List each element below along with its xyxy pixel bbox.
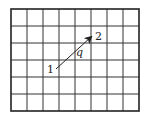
- grid-diagram: 1 2 q: [0, 0, 146, 118]
- grid-lines: [11, 9, 139, 111]
- grid-svg: [0, 0, 146, 118]
- angle-q-label: q: [76, 47, 83, 58]
- point-1-label: 1: [47, 64, 54, 75]
- point-2-label: 2: [95, 31, 102, 42]
- displacement-vector-arrow: [56, 37, 91, 69]
